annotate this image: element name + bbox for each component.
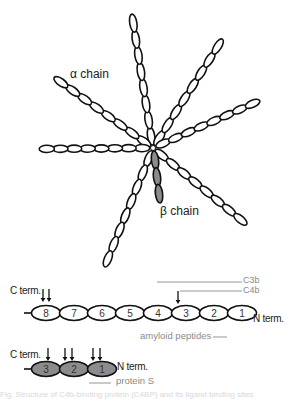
arrow-head-icon — [91, 357, 96, 361]
alpha-chain-top — [128, 14, 156, 146]
c3b-label: C3b — [243, 275, 260, 285]
amyloid-peptides-label: amyloid peptides — [140, 330, 211, 341]
arrow-head-icon — [70, 357, 75, 361]
ccp-domain — [210, 37, 225, 56]
ccp-domain — [232, 211, 249, 227]
alpha-domain-number: 5 — [127, 308, 133, 319]
arrow-head-icon — [63, 357, 68, 361]
beta-c-term-label: C term. — [10, 349, 41, 360]
ccp-domain — [244, 97, 261, 110]
alpha-chain-lower-left — [101, 149, 155, 268]
alpha-domain-number: 8 — [43, 308, 49, 319]
alpha-c-term-label: C term. — [10, 285, 41, 296]
alpha-n-term-label: N term. — [253, 313, 284, 324]
figure-caption: Fig. Structure of C4b-binding protein (C… — [0, 390, 297, 399]
protein-s-label: protein S — [116, 375, 154, 386]
ccp-domain — [39, 145, 54, 152]
arrow-head-icon — [176, 300, 181, 304]
alpha-domain-number: 3 — [183, 308, 189, 319]
ccp-domain — [101, 250, 114, 269]
alpha-domain-number: 2 — [211, 308, 217, 319]
arrow-head-icon — [41, 298, 46, 302]
ccp-domain — [128, 14, 138, 33]
beta-n-term-label: N term. — [117, 361, 148, 372]
alpha-chain-domain-map: 87654321 — [24, 282, 257, 337]
beta-domain-number: 1 — [99, 364, 105, 375]
central-core — [151, 146, 156, 151]
ccp-domain — [136, 62, 146, 81]
alpha-domain-number: 4 — [155, 308, 161, 319]
alpha-domain-number: 1 — [239, 308, 245, 319]
ccp-domain — [144, 110, 154, 129]
c4b-label: C4b — [243, 285, 260, 295]
alpha-domain-number: 7 — [71, 308, 77, 319]
beta-domain-number: 3 — [43, 364, 49, 375]
alpha-chain-upper-left — [52, 75, 152, 150]
arrow-head-icon — [47, 298, 52, 302]
alpha-chain-label: α chain — [70, 67, 109, 81]
arrow-head-icon — [46, 357, 51, 361]
alpha-domain-number: 6 — [99, 308, 105, 319]
ccp-domain — [139, 78, 149, 97]
ccp-domain — [52, 75, 70, 90]
beta-chain-label: β chain — [160, 204, 199, 218]
ccp-domain — [133, 46, 143, 65]
alpha-chain-left — [39, 144, 150, 152]
arrow-head-icon — [98, 357, 103, 361]
ccp-domain — [154, 184, 163, 204]
beta-domain-number: 2 — [71, 364, 77, 375]
c4bp-star-octopus — [39, 14, 261, 269]
